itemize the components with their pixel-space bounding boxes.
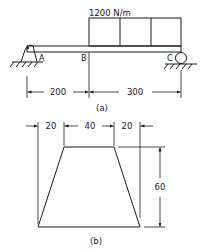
distributed-load: [89, 18, 181, 46]
cross-section-diagram: [26, 122, 165, 227]
trapezoid-section: [38, 147, 140, 227]
dim-200: 200: [50, 87, 66, 97]
beam: [27, 46, 181, 52]
caption-b: (b): [90, 236, 102, 246]
label-a: A: [39, 54, 45, 63]
figure: 1200 N/m A B C 200 300 (a) 20 40 20 60 (…: [0, 0, 205, 252]
load-label: 1200 N/m: [89, 8, 131, 18]
dim-height-60: 60: [155, 182, 166, 192]
dim-top-40: 40: [85, 121, 96, 131]
dim-top-right-20: 20: [122, 121, 133, 131]
caption-a: (a): [96, 103, 108, 113]
label-b: B: [81, 54, 87, 63]
dim-300: 300: [127, 87, 143, 97]
label-c: C: [167, 54, 173, 63]
dim-top-left-20: 20: [46, 121, 57, 131]
